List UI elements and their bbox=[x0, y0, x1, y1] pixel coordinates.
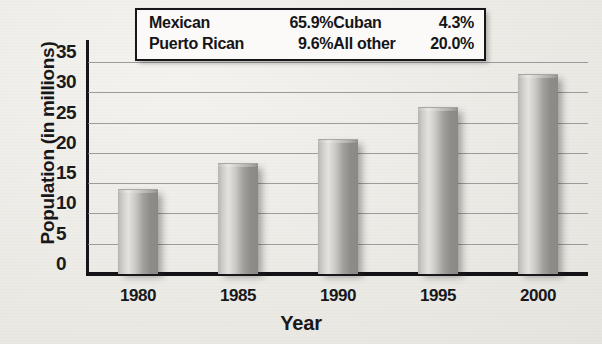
legend-value-mexican: 65.9% bbox=[275, 13, 333, 34]
y-tick-15: 15 bbox=[56, 162, 86, 184]
legend-label-cuban: Cuban bbox=[333, 13, 415, 34]
gridline bbox=[88, 123, 588, 124]
x-tick-1980: 1980 bbox=[93, 286, 183, 306]
bar-chart-figure: Population (in millions) 05101520253035 … bbox=[0, 0, 602, 344]
bar-1995 bbox=[418, 107, 458, 274]
legend-value-cuban: 4.3% bbox=[416, 13, 474, 34]
y-tick-10: 10 bbox=[56, 192, 86, 214]
legend-value-puerto-rican: 9.6% bbox=[275, 34, 333, 55]
x-axis-title: Year bbox=[0, 312, 602, 335]
y-tick-5: 5 bbox=[56, 223, 86, 245]
bar-1990 bbox=[318, 139, 358, 274]
x-tick-1985: 1985 bbox=[193, 286, 283, 306]
y-tick-25: 25 bbox=[56, 102, 86, 124]
legend-box: Mexican 65.9% Cuban 4.3% Puerto Rican 9.… bbox=[135, 8, 486, 61]
legend-label-mexican: Mexican bbox=[149, 13, 275, 34]
legend-label-all-other: All other bbox=[333, 34, 415, 55]
legend-row: Puerto Rican 9.6% All other 20.0% bbox=[149, 34, 474, 55]
legend-table: Mexican 65.9% Cuban 4.3% Puerto Rican 9.… bbox=[149, 13, 474, 55]
x-tick-2000: 2000 bbox=[493, 286, 583, 306]
legend-label-puerto-rican: Puerto Rican bbox=[149, 34, 275, 55]
x-tick-1995: 1995 bbox=[393, 286, 483, 306]
plot-area bbox=[88, 50, 588, 274]
y-tick-35: 35 bbox=[56, 41, 86, 63]
bar-2000 bbox=[518, 74, 558, 274]
y-tick-0: 0 bbox=[56, 253, 86, 275]
gridline bbox=[88, 92, 588, 93]
bar-1985 bbox=[218, 163, 258, 274]
legend-value-all-other: 20.0% bbox=[416, 34, 474, 55]
legend-row: Mexican 65.9% Cuban 4.3% bbox=[149, 13, 474, 34]
x-tick-1990: 1990 bbox=[293, 286, 383, 306]
y-tick-20: 20 bbox=[56, 132, 86, 154]
gridline bbox=[88, 62, 588, 63]
bar-1980 bbox=[118, 189, 158, 274]
y-tick-30: 30 bbox=[56, 71, 86, 93]
